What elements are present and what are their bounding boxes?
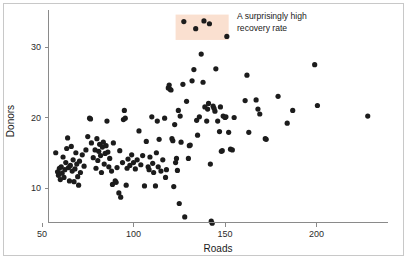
data-point xyxy=(184,99,189,104)
data-point xyxy=(162,116,167,121)
data-point xyxy=(264,137,269,142)
data-point xyxy=(199,51,204,56)
data-point xyxy=(158,168,163,173)
data-point xyxy=(207,21,212,26)
data-point xyxy=(69,144,74,149)
data-point xyxy=(151,170,156,175)
data-point xyxy=(171,184,176,189)
plot-canvas: 102030 50100150200 Roads Donors A surpri… xyxy=(0,0,409,261)
data-point xyxy=(178,113,183,118)
annotation-line-1: A surprisingly high xyxy=(237,11,307,21)
data-point xyxy=(178,140,183,145)
data-point xyxy=(154,150,159,155)
data-point xyxy=(201,18,206,23)
data-point xyxy=(81,164,86,169)
data-point xyxy=(95,158,100,163)
data-point xyxy=(114,165,119,170)
data-point xyxy=(191,67,196,72)
data-point xyxy=(200,80,205,85)
data-point xyxy=(290,108,295,113)
data-point xyxy=(224,34,229,39)
data-point xyxy=(133,166,138,171)
data-point xyxy=(189,78,194,83)
data-point xyxy=(99,170,104,175)
y-tick-label: 30 xyxy=(31,42,41,52)
data-point xyxy=(174,156,179,161)
data-point xyxy=(188,142,193,147)
data-point xyxy=(226,130,231,135)
data-point xyxy=(72,166,77,171)
data-point xyxy=(107,156,112,161)
data-point xyxy=(140,153,145,158)
data-point xyxy=(150,161,155,166)
data-point xyxy=(243,98,248,103)
data-point xyxy=(76,183,81,188)
data-point xyxy=(170,138,175,143)
x-tick-label: 50 xyxy=(37,229,47,239)
highlight-region xyxy=(176,15,229,40)
data-point xyxy=(168,87,173,92)
data-point xyxy=(85,134,90,139)
data-point xyxy=(71,179,76,184)
data-point xyxy=(117,148,122,153)
data-point xyxy=(67,178,72,183)
data-point xyxy=(88,116,93,121)
data-point xyxy=(77,159,82,164)
data-point xyxy=(103,143,108,148)
data-point xyxy=(53,150,58,155)
data-point xyxy=(104,118,109,123)
y-axis-title: Donors xyxy=(5,105,16,137)
data-point xyxy=(98,153,103,158)
data-point xyxy=(230,147,235,152)
x-axis-title: Roads xyxy=(204,243,233,254)
data-point xyxy=(93,166,98,171)
data-point xyxy=(124,183,129,188)
data-point xyxy=(212,109,217,114)
data-point xyxy=(176,108,181,113)
data-point xyxy=(220,148,225,153)
data-point xyxy=(275,94,280,99)
data-point xyxy=(155,118,160,123)
data-point xyxy=(78,170,83,175)
data-point xyxy=(136,128,141,133)
data-point xyxy=(142,183,147,188)
data-point xyxy=(244,73,249,78)
x-tick-label: 200 xyxy=(309,229,324,239)
x-axis-ticks: 50100150200 xyxy=(37,223,324,240)
data-point xyxy=(180,82,185,87)
data-point xyxy=(218,104,223,109)
data-point xyxy=(160,157,165,162)
data-point xyxy=(105,149,110,154)
data-point xyxy=(312,62,317,67)
data-point xyxy=(255,106,260,111)
data-point xyxy=(89,140,94,145)
data-point xyxy=(204,118,209,123)
data-point xyxy=(217,129,222,134)
data-point xyxy=(315,103,320,108)
data-point xyxy=(68,163,73,168)
data-point xyxy=(144,139,149,144)
x-tick-label: 100 xyxy=(126,229,141,239)
data-point xyxy=(114,180,119,185)
data-point xyxy=(213,66,218,71)
data-point xyxy=(71,157,76,162)
data-point xyxy=(65,135,70,140)
data-point xyxy=(63,160,68,165)
data-point xyxy=(186,156,191,161)
data-point xyxy=(129,152,134,157)
data-point xyxy=(120,160,125,165)
data-point xyxy=(138,162,143,167)
data-point xyxy=(232,115,237,120)
data-point xyxy=(135,157,140,162)
data-point xyxy=(246,130,251,135)
data-point xyxy=(83,147,88,152)
data-points-group xyxy=(53,18,370,226)
data-point xyxy=(64,146,69,151)
data-point xyxy=(111,140,116,145)
data-point xyxy=(153,183,158,188)
data-point xyxy=(182,214,187,219)
data-point xyxy=(118,195,123,200)
data-point xyxy=(210,221,215,226)
data-point xyxy=(157,137,162,142)
data-point xyxy=(94,136,99,141)
